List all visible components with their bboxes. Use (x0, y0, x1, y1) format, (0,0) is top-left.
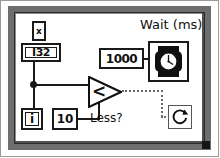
numeric-constant-10-label: 10 (57, 113, 74, 125)
multiply-terminal[interactable]: x (32, 21, 46, 41)
wait-ms-label: Wait (ms) (140, 18, 202, 31)
multiply-terminal-label: x (36, 27, 42, 36)
block-diagram-canvas: x I32 i 10 1000 Wait (ms) (0, 0, 220, 158)
less-than-glyph: < (92, 83, 106, 100)
numeric-constant-10[interactable]: 10 (52, 108, 78, 130)
less-question-label: Less? (90, 112, 123, 124)
wire-junction-to-iteration[interactable] (33, 85, 35, 110)
loop-bevel-left (15, 13, 16, 143)
loop-shadow-bottom (15, 141, 204, 143)
wire-junction-point (30, 81, 37, 88)
boolean-wire-segment-2[interactable] (161, 90, 163, 117)
wire-i32-to-junction[interactable] (33, 61, 35, 82)
conditional-terminal[interactable] (168, 105, 192, 129)
i32-representation-label: I32 (25, 47, 57, 58)
iteration-terminal-label: i (25, 112, 39, 126)
wire-junction-to-comparison[interactable] (34, 84, 90, 86)
less-than-function[interactable]: < (88, 76, 122, 108)
wait-ms-function[interactable] (148, 41, 189, 82)
loop-bevel-top (15, 13, 204, 14)
loop-shadow-right (202, 13, 204, 143)
loop-corner-marker (202, 141, 210, 149)
iteration-terminal[interactable]: i (21, 108, 43, 130)
i32-representation-node[interactable]: I32 (21, 43, 61, 62)
wristwatch-icon (151, 44, 186, 79)
numeric-constant-1000[interactable]: 1000 (99, 48, 144, 69)
loop-continue-icon (170, 107, 190, 127)
boolean-wire-segment-1[interactable] (122, 90, 163, 92)
numeric-constant-1000-label: 1000 (106, 53, 137, 65)
